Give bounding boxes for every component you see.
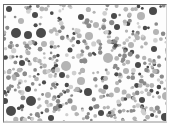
dot [81, 50, 84, 53]
dot [165, 41, 167, 44]
dot [90, 121, 93, 123]
dot [39, 7, 44, 12]
dot [18, 18, 24, 24]
dot [106, 94, 109, 97]
dot [101, 89, 106, 94]
dot [99, 28, 102, 31]
dot [125, 29, 128, 32]
dot [86, 7, 91, 12]
dot [144, 68, 149, 73]
dot [42, 80, 46, 84]
dot [67, 98, 72, 103]
dot [105, 8, 108, 11]
dot [163, 88, 166, 91]
dot [143, 61, 146, 64]
dot [67, 38, 70, 41]
dot [105, 69, 108, 72]
dot [62, 8, 64, 10]
dot [152, 69, 157, 74]
dot [123, 19, 127, 23]
dot [24, 31, 32, 39]
dot [98, 48, 101, 51]
dot [165, 101, 167, 106]
dot [149, 7, 157, 15]
dot [84, 88, 92, 96]
dot [61, 61, 71, 71]
dot [90, 20, 93, 23]
dot [166, 35, 167, 38]
dot [153, 38, 158, 43]
dot [56, 83, 59, 86]
dot [84, 20, 89, 25]
dot [136, 103, 141, 108]
dot [79, 59, 84, 64]
dot [4, 47, 7, 50]
dot [56, 59, 59, 62]
dot [4, 121, 9, 123]
dot [122, 62, 126, 66]
dot [113, 108, 116, 111]
dot [113, 43, 117, 47]
dot [37, 118, 42, 123]
dot [24, 80, 27, 83]
dot [140, 45, 143, 48]
dot [20, 104, 24, 108]
dot [140, 75, 143, 78]
dot [109, 92, 114, 97]
dot [65, 113, 68, 116]
dot [135, 62, 141, 68]
dot [166, 29, 167, 32]
dot [109, 20, 114, 25]
dot [48, 115, 54, 121]
dot [125, 38, 129, 42]
dot [138, 72, 141, 75]
dot [32, 12, 38, 18]
dot [12, 121, 16, 123]
dot [36, 28, 46, 38]
dot [72, 44, 75, 47]
dot [103, 53, 113, 63]
dot [160, 80, 164, 84]
dot [131, 86, 134, 89]
dot [92, 97, 96, 101]
dot [118, 44, 121, 47]
dot [17, 107, 20, 110]
dot [118, 14, 121, 17]
dot [52, 27, 56, 31]
dot [59, 5, 62, 6]
dot [56, 54, 60, 58]
dot [62, 120, 65, 123]
dot [65, 53, 69, 57]
dot [137, 12, 145, 20]
dot [93, 53, 96, 56]
dot [5, 94, 8, 97]
dot [81, 109, 84, 112]
dot [99, 95, 103, 99]
dot [7, 90, 10, 93]
dot [54, 61, 57, 64]
dot [8, 44, 12, 48]
dot [122, 54, 127, 59]
dot [41, 93, 44, 96]
dot [77, 77, 85, 85]
dot [68, 85, 73, 90]
dot [153, 110, 156, 113]
dot [65, 102, 68, 105]
dot [74, 112, 78, 116]
dot [24, 44, 29, 49]
dot [157, 55, 161, 59]
dot [9, 84, 12, 87]
dot [155, 106, 160, 111]
dot [145, 83, 149, 87]
dot [93, 22, 99, 28]
dot [95, 84, 98, 87]
dot [156, 91, 159, 94]
dot [92, 72, 95, 75]
dot [26, 9, 31, 14]
dot [157, 85, 162, 90]
dot [21, 109, 24, 112]
dot [27, 116, 30, 119]
dot [65, 83, 69, 87]
dot [159, 37, 163, 41]
dot [12, 74, 16, 78]
